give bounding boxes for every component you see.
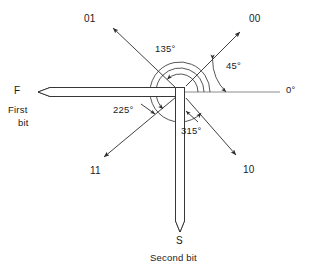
reference-label-0deg: 0°: [286, 84, 295, 95]
first-bit-letter: F: [14, 85, 20, 96]
ray-label-01: 01: [84, 13, 96, 24]
angle-label-225: 225°: [113, 104, 133, 115]
angle-label-315: 315°: [181, 125, 201, 136]
diagram-canvas: 01 00 11 10 135° 225° 315° 45° 0° F Firs…: [0, 0, 312, 273]
second-bit-letter: S: [176, 235, 183, 246]
first-bit-name-line2: bit: [18, 117, 29, 128]
first-bit-shape: [38, 88, 185, 97]
second-bit-shape: [176, 88, 185, 233]
first-bit-name-line1: First: [8, 104, 27, 115]
ray-00: [186, 32, 240, 86]
ray-01: [113, 28, 176, 88]
angle-arc-45: [213, 59, 226, 92]
ray-label-10: 10: [243, 164, 255, 175]
ray-label-00: 00: [249, 13, 261, 24]
angle-label-135: 135°: [155, 43, 175, 54]
angle-label-45: 45°: [226, 60, 241, 71]
leader-315: [186, 111, 198, 122]
ray-label-11: 11: [90, 165, 101, 176]
angle-diagram-svg: [0, 0, 312, 273]
second-bit-name: Second bit: [150, 252, 197, 263]
